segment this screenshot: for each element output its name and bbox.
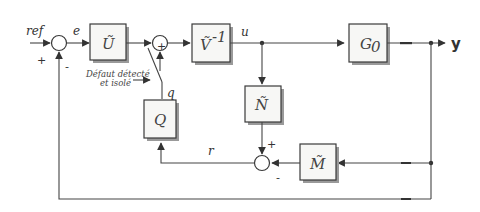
summing-junction-1 xyxy=(52,36,67,51)
ref-label: ref xyxy=(26,24,46,38)
r-label: r xyxy=(208,144,215,158)
block-u-label: Ũ xyxy=(102,35,116,53)
sum2-plus-sign: + xyxy=(157,40,166,53)
sum1-minus-sign: - xyxy=(65,60,69,73)
block-diagram: ref + - e Ũ + Défaut détecté et isolé q … xyxy=(0,0,480,212)
block-n-label: Ñ xyxy=(254,96,269,114)
summing-junction-3 xyxy=(255,156,270,171)
block-q-label: Q xyxy=(154,111,166,129)
sum3-minus-sign: - xyxy=(276,171,280,184)
e-label: e xyxy=(73,24,80,38)
sum3-plus-sign: + xyxy=(267,138,276,151)
annotation-line2: et isolé xyxy=(100,78,131,88)
q-label: q xyxy=(167,86,175,100)
block-g0-subscript: 0 xyxy=(371,38,381,56)
sum1-plus-sign: + xyxy=(37,54,46,67)
u-label: u xyxy=(241,25,249,39)
y-label: y xyxy=(451,35,461,53)
block-m-label: M̃ xyxy=(309,155,326,173)
block-v-exponent: -1 xyxy=(212,28,227,46)
